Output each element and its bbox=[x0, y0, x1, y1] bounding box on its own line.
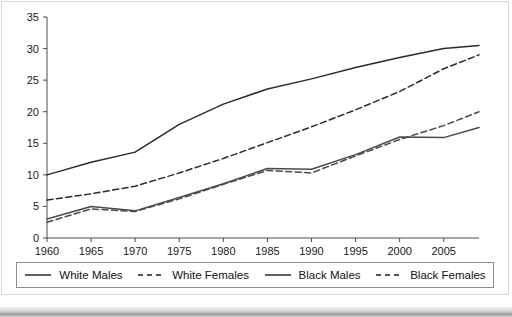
y-tick-label: 35 bbox=[27, 11, 39, 23]
legend-label-black-females: Black Females bbox=[410, 269, 485, 281]
series-line bbox=[47, 55, 479, 200]
legend-label-white-females: White Females bbox=[172, 269, 249, 281]
legend-line-solid-icon bbox=[264, 270, 292, 280]
series-line bbox=[47, 112, 479, 223]
x-tick-label: 1990 bbox=[299, 245, 323, 257]
legend-line-dashed-icon bbox=[137, 270, 165, 280]
legend-entry-white-females: White Females bbox=[137, 269, 249, 281]
chart-legend: White Males White Females Black Males Bl… bbox=[16, 262, 494, 288]
x-tick-label: 2000 bbox=[387, 245, 411, 257]
chart-canvas: 0510152025303519601965197019751980198519… bbox=[0, 0, 512, 260]
x-tick-label: 1975 bbox=[167, 245, 191, 257]
legend-label-black-males: Black Males bbox=[299, 269, 361, 281]
y-tick-label: 10 bbox=[27, 169, 39, 181]
x-tick-label: 2005 bbox=[431, 245, 455, 257]
y-tick-label: 20 bbox=[27, 106, 39, 118]
series-line bbox=[47, 128, 479, 220]
legend-line-solid-icon bbox=[24, 270, 52, 280]
y-tick-label: 30 bbox=[27, 43, 39, 55]
window-bottom-bar bbox=[0, 307, 512, 317]
y-tick-label: 15 bbox=[27, 137, 39, 149]
x-tick-label: 1985 bbox=[255, 245, 279, 257]
legend-entry-black-females: Black Females bbox=[375, 269, 485, 281]
y-tick-label: 25 bbox=[27, 74, 39, 86]
legend-label-white-males: White Males bbox=[59, 269, 122, 281]
line-chart: 0510152025303519601965197019751980198519… bbox=[0, 0, 512, 260]
series-line bbox=[47, 45, 479, 174]
y-tick-label: 5 bbox=[33, 200, 39, 212]
x-tick-label: 1980 bbox=[211, 245, 235, 257]
legend-line-dashed-icon bbox=[375, 270, 403, 280]
legend-entry-black-males: Black Males bbox=[264, 269, 361, 281]
x-tick-label: 1960 bbox=[35, 245, 59, 257]
legend-entry-white-males: White Males bbox=[24, 269, 122, 281]
y-tick-label: 0 bbox=[33, 232, 39, 244]
x-tick-label: 1995 bbox=[343, 245, 367, 257]
x-tick-label: 1965 bbox=[79, 245, 103, 257]
plot-root: 0510152025303519601965197019751980198519… bbox=[27, 11, 479, 257]
screenshot-page: 0510152025303519601965197019751980198519… bbox=[0, 0, 512, 317]
x-tick-label: 1970 bbox=[123, 245, 147, 257]
